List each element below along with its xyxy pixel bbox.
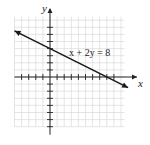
graph: x y x + 2y = 8 bbox=[0, 0, 150, 145]
equation-label: x + 2y = 8 bbox=[69, 47, 110, 58]
x-axis-label: x bbox=[137, 77, 143, 89]
y-axis-label: y bbox=[41, 2, 47, 14]
grid-lines bbox=[15, 17, 125, 127]
